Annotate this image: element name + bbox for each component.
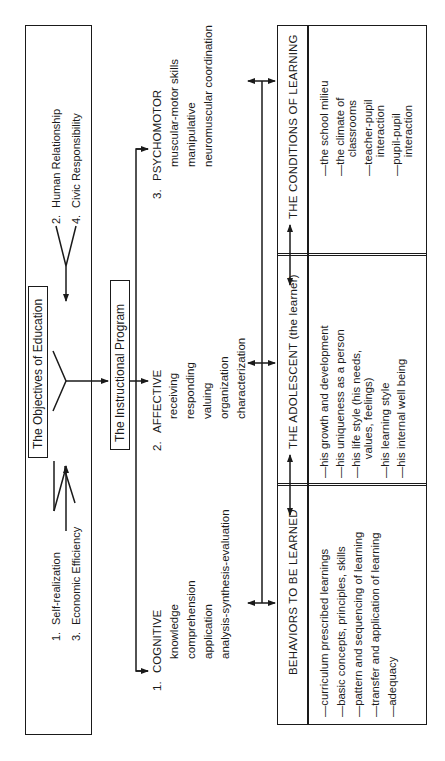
bus-to-cognitive (136, 381, 148, 671)
objective-right-fork (56, 226, 76, 266)
bus-to-psychomotor (136, 149, 148, 381)
diagram-canvas: The Objectives of Education 1. Self-real… (0, 0, 445, 761)
objectives-merge-fork (53, 351, 66, 411)
connector-lines (0, 0, 445, 761)
objective-left-fork (54, 471, 75, 511)
